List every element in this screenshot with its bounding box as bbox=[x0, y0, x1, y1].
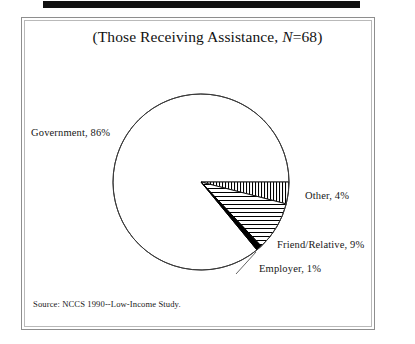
chart-title-lead: (Those Receiving Assistance, bbox=[93, 28, 283, 45]
chart-title-tail: =68) bbox=[293, 28, 323, 45]
top-rule-divider bbox=[43, 1, 360, 8]
figure-container: (Those Receiving Assistance, N=68) bbox=[0, 0, 415, 344]
slice-label-employer: Employer, 1% bbox=[259, 263, 321, 274]
slice-label-friend-relative: Friend/Relative, 9% bbox=[277, 239, 364, 250]
figure-frame-inner bbox=[24, 20, 372, 327]
chart-title-n-symbol: N bbox=[282, 28, 292, 45]
figure-frame bbox=[21, 17, 375, 330]
slice-label-government: Government, 86% bbox=[31, 127, 110, 138]
slice-label-other: Other, 4% bbox=[305, 190, 349, 201]
source-note: Source: NCCS 1990--Low-Income Study. bbox=[33, 299, 181, 309]
chart-title: (Those Receiving Assistance, N=68) bbox=[0, 28, 415, 46]
